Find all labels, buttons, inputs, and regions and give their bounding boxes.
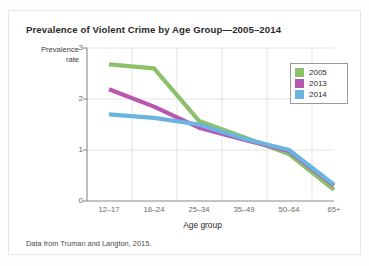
legend-item-2014: 2014 (295, 89, 343, 100)
x-tick-18-24: 18–24 (131, 205, 177, 214)
figure-card: Prevalence of Violent Crime by Age Group… (8, 10, 361, 255)
figure-page: Prevalence of Violent Crime by Age Group… (0, 0, 369, 266)
legend-swatch-2014 (295, 90, 304, 99)
legend-label-2013: 2013 (309, 78, 327, 89)
x-tick-12-17: 12–17 (86, 205, 132, 214)
x-tick-65-plus: 65+ (311, 205, 357, 214)
legend-label-2005: 2005 (309, 67, 327, 78)
x-tick-35-49: 35–49 (221, 205, 267, 214)
plot-area: Prevalence rate 3 2 1 0 (9, 11, 362, 256)
legend-item-2013: 2013 (295, 78, 343, 89)
legend-label-2014: 2014 (309, 89, 327, 100)
series-2014 (109, 114, 334, 184)
x-tick-25-34: 25–34 (176, 205, 222, 214)
legend-swatch-2013 (295, 79, 304, 88)
x-axis-label-text: Age group (183, 220, 222, 230)
x-tick-50-64: 50–64 (266, 205, 312, 214)
legend-item-2005: 2005 (295, 67, 343, 78)
legend-swatch-2005 (295, 68, 304, 77)
chart-legend: 2005 2013 2014 (290, 63, 348, 104)
source-note: Data from Truman and Langton, 2015. (26, 239, 151, 248)
x-axis-label: Age group (9, 220, 362, 230)
